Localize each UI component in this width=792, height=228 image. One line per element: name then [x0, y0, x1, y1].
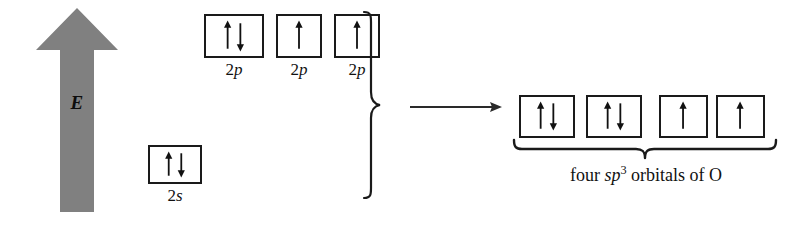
electron-pair-updown-icon [150, 147, 200, 182]
orbital-label-2p-1: 2p [204, 60, 264, 80]
orbital-box-2p-1 [204, 14, 264, 58]
sp3-underbrace-icon [512, 138, 778, 160]
transformation-arrow-icon [408, 92, 506, 122]
orbital-box-2p-2 [276, 14, 322, 58]
orbital-label-2s: 2s [148, 186, 202, 206]
energy-axis-label: E [34, 92, 120, 114]
electron-single-up-icon [278, 16, 320, 56]
orbital-box-sp3-1 [519, 95, 575, 138]
orbital-box-sp3-4 [716, 95, 765, 138]
electron-single-up-icon [661, 97, 706, 136]
orbital-box-sp3-2 [586, 95, 642, 138]
orbital-label-2p-2: 2p [276, 60, 322, 80]
orbital-box-2s [148, 145, 202, 184]
electron-single-up-icon [718, 97, 763, 136]
electron-pair-updown-icon [521, 97, 573, 136]
electron-pair-updown-icon [588, 97, 640, 136]
orbital-energy-diagram: E 2p 2p [0, 0, 792, 228]
grouping-brace-icon [358, 10, 388, 200]
orbital-box-sp3-3 [659, 95, 708, 138]
sp3-orbitals-caption: four sp3 orbitals of O [500, 163, 792, 186]
electron-pair-updown-icon [206, 16, 262, 56]
